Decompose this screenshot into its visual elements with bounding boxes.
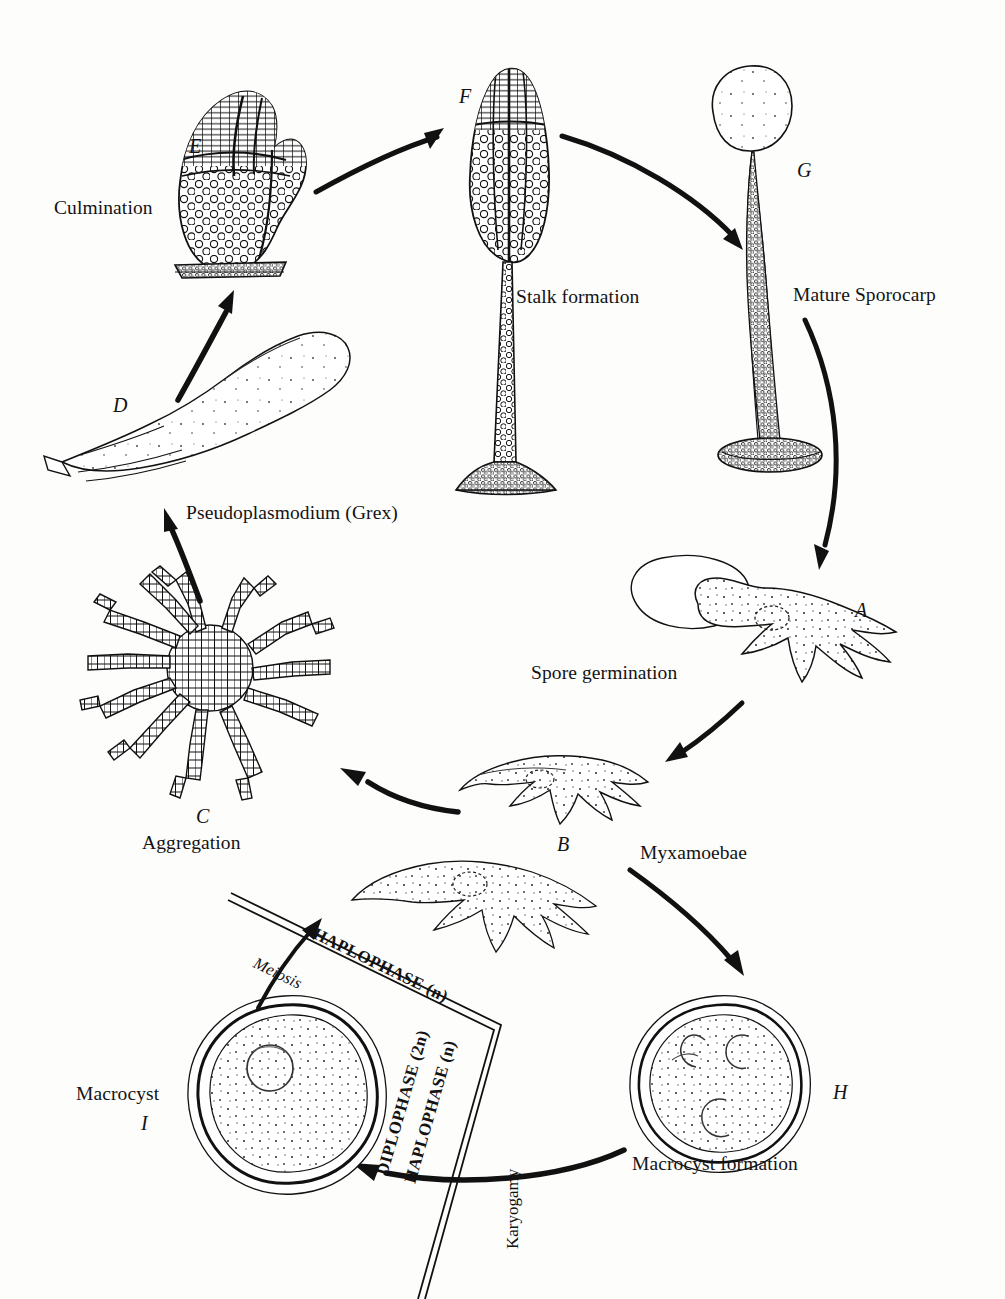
stage-label-stalk-formation: Stalk formation (516, 287, 639, 307)
diagram-canvas (0, 0, 1005, 1299)
stage-label-spore-germination: Spore germination (531, 663, 677, 683)
arrow-A-to-B (665, 703, 742, 762)
stage-label-myxamoebae: Myxamoebae (640, 843, 747, 863)
stage-H-macrocyst-formation-figure (630, 996, 810, 1173)
arrow-B-to-H (630, 870, 744, 976)
stage-F-stalk-formation-figure (456, 62, 558, 495)
stage-letter-C: C (196, 806, 209, 826)
process-label-karyogamy: Karyogamy (504, 1169, 521, 1249)
stage-I-macrocyst-figure (188, 996, 386, 1195)
life-cycle-diagram: A Spore germination B Myxamoebae C Aggre… (0, 0, 1005, 1299)
stage-letter-E: E (189, 136, 201, 156)
haploid-myxamoeba-figure (352, 861, 596, 952)
stage-label-macrocyst-formation: Macrocyst formation (632, 1154, 798, 1174)
stage-letter-B: B (557, 834, 569, 854)
stage-letter-H: H (833, 1082, 847, 1102)
stage-label-macrocyst: Macrocyst (76, 1084, 159, 1104)
stage-letter-I: I (141, 1113, 148, 1133)
arrow-F-to-G (562, 136, 743, 250)
stage-letter-D: D (113, 395, 127, 415)
stage-label-mature-sporocarp: Mature Sporocarp (793, 285, 936, 305)
stage-label-aggregation: Aggregation (142, 833, 241, 853)
stage-D-pseudoplasmodium-figure (44, 332, 350, 481)
arrow-B-to-C (340, 768, 458, 812)
stage-E-culmination-figure (175, 88, 316, 278)
stage-letter-G: G (797, 160, 811, 180)
stage-B-myxamoebae-figure (460, 756, 648, 824)
stage-letter-A: A (855, 600, 867, 620)
stage-letter-F: F (459, 86, 471, 106)
stage-label-culmination: Culmination (54, 198, 153, 218)
stage-G-mature-sporocarp-figure (712, 66, 822, 472)
arrow-E-to-F (316, 128, 444, 192)
stage-C-aggregation-figure (80, 566, 334, 800)
stage-label-pseudoplasmodium: Pseudoplasmodium (Grex) (186, 503, 398, 523)
